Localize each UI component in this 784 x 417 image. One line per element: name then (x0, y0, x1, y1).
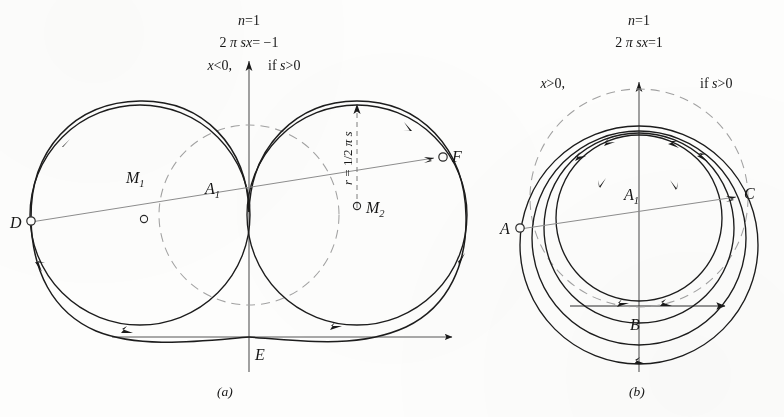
panel-b-label-c: C (744, 185, 755, 202)
panel-b-header-equation: 2 π sx=1 (615, 35, 663, 50)
panel-b-header-xcond: x>0, (539, 76, 565, 91)
panel-a-trochoid-right-lower (249, 216, 466, 342)
panel-b-header-scond: if s>0 (700, 76, 732, 91)
figure-container: n=1 2 π sx= −1 x<0, if s>0 (0, 0, 784, 417)
panel-b-label-b: B (630, 316, 640, 333)
panel-a-label-d: D (9, 214, 22, 231)
panel-b-arrow-left-mid (598, 178, 606, 188)
panel-a-right-circle (247, 105, 467, 325)
panel-a-label-m1: M1 (125, 169, 145, 189)
panel-a-direction-arrowheads (35, 122, 465, 333)
panel-a-point-f-marker (439, 153, 447, 161)
panel-a-label-f: F (451, 148, 462, 165)
panel-a-label-m2: M2 (365, 199, 385, 219)
panel-b-label-a: A (499, 220, 510, 237)
panel-a-arrow-top-left (62, 139, 70, 147)
panel-a-label-a1: A1 (204, 180, 220, 200)
panel-b: n=1 2 π sx=1 x>0, if s>0 (499, 13, 758, 399)
panel-a-radius-label: r = 1/2 π s (340, 131, 355, 185)
panel-a-trochoid-left-upper (31, 101, 249, 219)
panel-a-label-e: E (254, 346, 265, 363)
panel-b-caption: (b) (629, 384, 645, 399)
panel-b-arrow-bottom-outer (634, 357, 646, 364)
panel-b-header-n: n=1 (628, 13, 650, 28)
panel-a-point-d-marker (27, 217, 35, 225)
panel-b-label-a1: A1 (623, 186, 639, 206)
panel-a-header-equation: 2 π sx= −1 (220, 35, 279, 50)
panel-a-arrow-top-right (403, 122, 412, 131)
figure-svg: n=1 2 π sx= −1 x<0, if s>0 (0, 0, 784, 417)
panel-a-center-m1-marker (140, 215, 147, 222)
panel-a-caption: (a) (217, 384, 233, 399)
panel-b-chord-arrowhead (726, 196, 736, 202)
panel-a-arrow-bottom-left (121, 326, 133, 333)
panel-a-trochoid-left-lower (31, 219, 249, 342)
panel-a: n=1 2 π sx= −1 x<0, if s>0 (9, 13, 467, 399)
panel-b-arrow-right-mid (670, 180, 678, 190)
panel-b-direction-arrowheads (575, 138, 708, 364)
panel-a-left-circle (30, 105, 250, 325)
panel-a-header-n: n=1 (238, 13, 260, 28)
panel-a-header-scond: if s>0 (268, 58, 300, 73)
panel-a-header-xcond: x<0, (206, 58, 232, 73)
panel-b-point-a-marker (516, 224, 524, 232)
panel-a-chord-arrowhead (424, 157, 434, 163)
